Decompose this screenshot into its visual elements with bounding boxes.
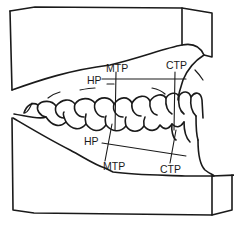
dental-cast-diagram <box>0 0 234 225</box>
lower-mtp-label: MTP <box>103 161 125 172</box>
lower-ctp-label: CTP <box>160 164 181 175</box>
lower-hp-label: HP <box>84 136 99 147</box>
upper-ctp-label: CTP <box>166 60 187 71</box>
upper-hp-label: HP <box>87 75 102 86</box>
upper-mtp-label: MTP <box>106 63 128 74</box>
lower-teeth <box>14 112 198 142</box>
upper-cast-base <box>10 7 212 100</box>
